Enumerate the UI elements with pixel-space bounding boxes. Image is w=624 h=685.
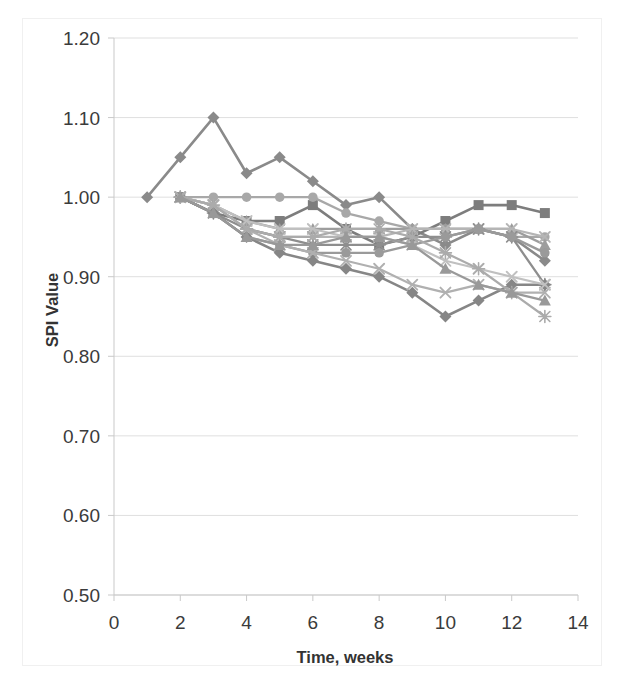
data-point-marker	[308, 192, 318, 202]
y-tick-label: 0.90	[63, 267, 100, 288]
x-tick-label: 10	[435, 612, 456, 633]
axis-lines-group	[108, 38, 578, 601]
data-point-marker	[539, 311, 551, 323]
y-tick-label: 1.10	[63, 108, 100, 129]
series-8	[174, 191, 551, 322]
data-point-marker	[507, 200, 517, 210]
data-point-marker	[473, 295, 485, 307]
data-point-marker	[341, 208, 351, 218]
x-tick-label: 12	[501, 612, 522, 633]
data-point-marker	[540, 248, 550, 257]
data-point-marker	[439, 247, 451, 259]
y-tick-label: 0.60	[63, 505, 100, 526]
y-tick-label: 0.50	[63, 585, 100, 606]
y-tick-label: 0.70	[63, 426, 100, 447]
series-11	[174, 191, 551, 322]
x-tick-label: 6	[308, 612, 319, 633]
data-point-marker	[474, 224, 484, 234]
y-tick-label: 0.80	[63, 346, 100, 367]
series-line	[180, 197, 545, 300]
y-tick-label: 1.20	[63, 28, 100, 49]
data-point-marker	[473, 263, 485, 275]
data-point-marker	[441, 232, 451, 242]
x-axis-title: Time, weeks	[297, 648, 394, 666]
series-10	[175, 192, 550, 290]
x-tick-label: 8	[374, 612, 385, 633]
x-tick-label: 2	[175, 612, 186, 633]
y-axis-title: SPI Value	[43, 273, 61, 347]
spi-line-chart: 0.500.600.700.800.901.001.101.20 0246810…	[0, 0, 624, 685]
x-tick-label: 14	[567, 612, 589, 633]
series-12	[174, 191, 551, 305]
data-point-marker	[474, 200, 484, 210]
x-tick-label: 0	[109, 612, 120, 633]
x-tick-labels-group: 02468101214	[109, 612, 589, 633]
chart-container: 0.500.600.700.800.901.001.101.20 0246810…	[0, 0, 624, 685]
x-tick-label: 4	[241, 612, 252, 633]
data-point-marker	[540, 208, 550, 218]
y-tick-labels-group: 0.500.600.700.800.901.001.101.20	[63, 28, 100, 606]
series-group	[141, 112, 551, 323]
data-point-marker	[241, 167, 253, 179]
data-point-marker	[275, 192, 285, 202]
y-tick-label: 1.00	[63, 187, 100, 208]
gridlines-group	[114, 38, 578, 595]
data-point-marker	[507, 232, 517, 242]
data-point-marker	[374, 248, 384, 257]
data-point-marker	[242, 192, 252, 202]
